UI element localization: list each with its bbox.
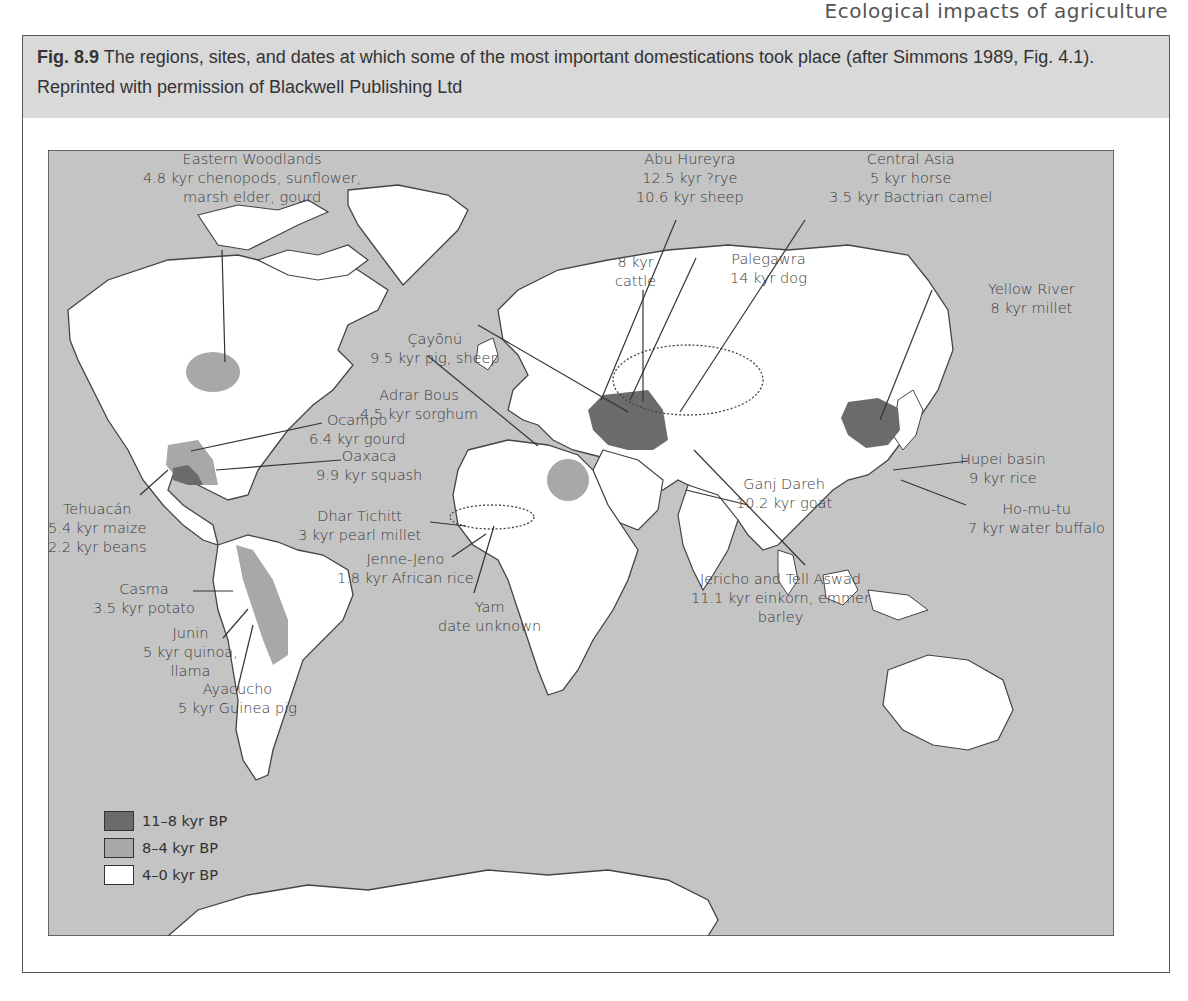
label-jenne-jeno: Jenne-Jeno 1.8 kyr African rice [337, 550, 474, 588]
label-name: Jenne-Jeno [337, 550, 474, 569]
label-ganj-dareh: Ganj Dareh 10.2 kyr goat [736, 475, 832, 513]
label-ho-mu-tu: Ho-mu-tu 7 kyr water buffalo [968, 500, 1105, 538]
label-name: Hupei basin [960, 450, 1046, 469]
label-line: llama [143, 662, 238, 681]
legend-swatch-dark [104, 811, 134, 831]
label-name: Ganj Dareh [736, 475, 832, 494]
label-line: 2.2 kyr beans [48, 538, 146, 557]
label-central-asia: Central Asia 5 kyr horse 3.5 kyr Bactria… [829, 150, 992, 207]
label-line: cattle [615, 272, 656, 291]
label-casma: Casma 3.5 kyr potato [93, 580, 195, 618]
legend-item-11-8: 11–8 kyr BP [104, 807, 227, 834]
label-name: Yellow River [988, 280, 1075, 299]
label-eastern-woodlands: Eastern Woodlands 4.8 kyr chenopods, sun… [143, 150, 361, 207]
label-line: barley [691, 608, 870, 627]
legend-label: 11–8 kyr BP [142, 813, 227, 829]
label-line: 3.5 kyr potato [93, 599, 195, 618]
label-line: 8 kyr millet [988, 299, 1075, 318]
label-oaxaca: Oaxaca 9.9 kyr squash [316, 447, 422, 485]
label-line: 5 kyr Guinea pig [178, 699, 297, 718]
label-line: 9 kyr rice [960, 469, 1046, 488]
label-line: 9.5 kyr pig, sheep [370, 349, 500, 368]
label-line: 4.8 kyr chenopods, sunflower, [143, 169, 361, 188]
label-hupei-basin: Hupei basin 9 kyr rice [960, 450, 1046, 488]
label-name: Oaxaca [316, 447, 422, 466]
legend-label: 8–4 kyr BP [142, 840, 218, 856]
label-name: Eastern Woodlands [143, 150, 361, 169]
running-head: Ecological impacts of agriculture [825, 0, 1168, 22]
label-yellow-river: Yellow River 8 kyr millet [988, 280, 1075, 318]
label-name: Adrar Bous [360, 386, 478, 405]
label-cayonu: Çayõnü 9.5 kyr pig, sheep [370, 330, 500, 368]
label-line: 3.5 kyr Bactrian camel [829, 188, 992, 207]
label-tehuacan: Tehuacán 5.4 kyr maize 2.2 kyr beans [48, 500, 146, 557]
label-junin: Junin 5 kyr quinoa, llama [143, 624, 238, 681]
label-name: Junin [143, 624, 238, 643]
label-name: Abu Hureyra [636, 150, 744, 169]
label-name: Ayacucho [178, 680, 297, 699]
label-name: Tehuacán [48, 500, 146, 519]
label-line: 11.1 kyr einkorn, emmer [691, 589, 870, 608]
label-name: Yam [438, 598, 541, 617]
label-line: 14 kyr dog [730, 269, 807, 288]
label-name: Casma [93, 580, 195, 599]
label-line: 7 kyr water buffalo [968, 519, 1105, 538]
caption-text: The regions, sites, and dates at which s… [37, 47, 1094, 97]
legend-swatch-light [104, 865, 134, 885]
legend-item-8-4: 8–4 kyr BP [104, 834, 227, 861]
label-line: marsh elder, gourd [143, 188, 361, 207]
label-line: 8 kyr [615, 253, 656, 272]
label-name: Central Asia [829, 150, 992, 169]
region-eastern-woodlands [186, 352, 240, 392]
map-legend: 11–8 kyr BP 8–4 kyr BP 4–0 kyr BP [104, 807, 227, 888]
legend-item-4-0: 4–0 kyr BP [104, 861, 227, 888]
label-dhar-tichitt: Dhar Tichitt 3 kyr pearl millet [298, 507, 421, 545]
label-line: 10.6 kyr sheep [636, 188, 744, 207]
label-name: Palegawra [730, 250, 807, 269]
label-line: 1.8 kyr African rice [337, 569, 474, 588]
label-name: Ho-mu-tu [968, 500, 1105, 519]
label-name: Dhar Tichitt [298, 507, 421, 526]
label-line: 3 kyr pearl millet [298, 526, 421, 545]
label-line: 10.2 kyr goat [736, 494, 832, 513]
legend-swatch-medium [104, 838, 134, 858]
label-jericho: Jericho and Tell Aswad 11.1 kyr einkorn,… [691, 570, 870, 627]
label-line: 5.4 kyr maize [48, 519, 146, 538]
label-name: Jericho and Tell Aswad [691, 570, 870, 589]
label-palegawra: Palegawra 14 kyr dog [730, 250, 807, 288]
legend-label: 4–0 kyr BP [142, 867, 218, 883]
label-ocampo: Ocampo 6.4 kyr gourd [309, 411, 405, 449]
label-line: date unknown [438, 617, 541, 636]
label-abu-hureyra: Abu Hureyra 12.5 kyr ?rye 10.6 kyr sheep [636, 150, 744, 207]
label-line: 12.5 kyr ?rye [636, 169, 744, 188]
label-name: Ocampo [309, 411, 405, 430]
label-line: 5 kyr quinoa, [143, 643, 238, 662]
label-cattle: 8 kyr cattle [615, 253, 656, 291]
label-yam: Yam date unknown [438, 598, 541, 636]
figure-caption: Fig. 8.9 The regions, sites, and dates a… [23, 36, 1169, 118]
label-name: Çayõnü [370, 330, 500, 349]
label-ayacucho: Ayacucho 5 kyr Guinea pig [178, 680, 297, 718]
label-line: 5 kyr horse [829, 169, 992, 188]
label-line: 9.9 kyr squash [316, 466, 422, 485]
region-adrar-bous [547, 459, 589, 501]
figure-number: Fig. 8.9 [37, 47, 99, 67]
